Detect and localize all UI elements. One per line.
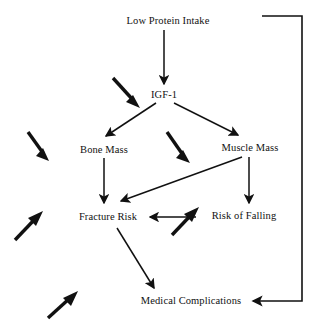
edge-medical-complications-feedback-to-low-protein-intake xyxy=(253,16,302,301)
edge-fracture-risk-to-medical-complications xyxy=(117,228,154,288)
node-fracture-risk[interactable]: Fracture Risk xyxy=(79,212,137,223)
decrease-marker-bone-mass xyxy=(28,132,49,161)
edge-muscle-mass-to-fracture-risk xyxy=(121,157,242,201)
edge-igf1-to-muscle-mass xyxy=(174,103,238,135)
node-igf-1[interactable]: IGF-1 xyxy=(151,90,177,101)
node-medical-complications[interactable]: Medical Complications xyxy=(141,296,241,307)
increase-marker-risk-of-falling xyxy=(172,207,199,235)
diagram-connector-layer xyxy=(0,0,315,325)
decrease-marker-muscle-mass xyxy=(167,132,190,163)
diagram-canvas: Low Protein Intake IGF-1 Bone Mass Muscl… xyxy=(0,0,315,325)
node-bone-mass[interactable]: Bone Mass xyxy=(80,145,128,156)
decrease-marker-igf1 xyxy=(113,78,140,108)
node-risk-of-falling[interactable]: Risk of Falling xyxy=(212,211,277,222)
edge-igf1-to-bone-mass xyxy=(106,103,156,136)
increase-marker-medical-complications xyxy=(48,291,78,318)
increase-marker-fracture-risk xyxy=(15,211,43,240)
node-muscle-mass[interactable]: Muscle Mass xyxy=(222,143,279,154)
node-low-protein-intake[interactable]: Low Protein Intake xyxy=(127,16,210,27)
